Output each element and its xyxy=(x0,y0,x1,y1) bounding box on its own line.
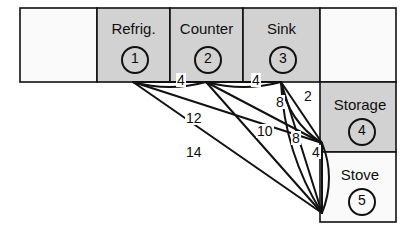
node-number-2: 2 xyxy=(194,46,222,74)
grid-cell-empty-right xyxy=(320,8,396,82)
edge-label-3-5: 8 xyxy=(291,131,301,145)
edge-label-1-2: 4 xyxy=(176,73,186,87)
edge-label-2-4: 8 xyxy=(275,95,285,109)
node-number-1: 1 xyxy=(121,46,149,74)
edge-label-2-3: 4 xyxy=(251,73,261,87)
edge-label-2-5: 10 xyxy=(256,124,274,138)
edge-label-3-4: 2 xyxy=(303,89,313,103)
node-number-3: 3 xyxy=(269,46,297,74)
edge-label-4-5: 4 xyxy=(311,145,321,159)
edge-label-1-5: 14 xyxy=(185,145,203,159)
node-number-4: 4 xyxy=(348,118,376,146)
figure-canvas: Refrig. Counter Sink Storage Stove 1 2 3… xyxy=(0,0,400,235)
grid-cell-empty-left xyxy=(20,8,97,82)
edge-3-4 xyxy=(281,82,322,143)
edge-label-1-4: 12 xyxy=(185,111,203,125)
node-number-5: 5 xyxy=(348,188,376,216)
